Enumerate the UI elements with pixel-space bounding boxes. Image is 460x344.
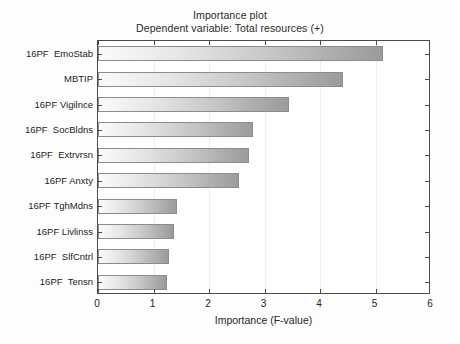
x-axis-tick: [320, 289, 321, 293]
y-axis-tick: [98, 206, 102, 207]
bar-row: [98, 193, 429, 218]
x-axis-tick-label: 2: [193, 298, 223, 309]
x-axis-tick: [154, 289, 155, 293]
y-axis-tick: [98, 54, 102, 55]
x-axis-tick-label: 4: [304, 298, 334, 309]
x-axis-tick: [98, 41, 99, 45]
y-axis-tick-label: 16PF SlfCntrl: [1, 250, 93, 261]
y-axis-tick-label: 16PF Vigilnce: [1, 98, 93, 109]
bar-row: [98, 270, 429, 294]
bar: [98, 249, 169, 264]
bar-row: [98, 117, 429, 142]
x-axis-tick: [320, 41, 321, 45]
bar-row: [98, 143, 429, 168]
y-axis-tick: [98, 181, 102, 182]
y-axis-tick: [98, 130, 102, 131]
x-axis-title: Importance (F-value): [97, 314, 430, 326]
y-axis-tick: [425, 155, 429, 156]
y-axis-tick: [425, 206, 429, 207]
y-axis-tick-label: 16PF Tensn: [1, 276, 93, 287]
y-axis-tick: [98, 155, 102, 156]
y-axis-tick: [425, 282, 429, 283]
bar: [98, 46, 383, 61]
importance-plot-chart: Importance plot Dependent variable: Tota…: [0, 0, 460, 344]
y-axis-tick-label: 16PF Extrvrsn: [1, 149, 93, 160]
x-axis-tick: [265, 41, 266, 45]
x-axis-tick-label: 5: [360, 298, 390, 309]
x-axis-tick: [154, 41, 155, 45]
x-axis-tick: [209, 289, 210, 293]
x-axis-tick-label: 1: [138, 298, 168, 309]
x-axis-tick-label: 0: [82, 298, 112, 309]
y-axis-tick: [425, 232, 429, 233]
x-axis-tick: [98, 289, 99, 293]
x-axis-tick: [376, 289, 377, 293]
y-axis-tick: [425, 79, 429, 80]
y-axis-tick-label: 16PF Livlinss: [1, 225, 93, 236]
bar-row: [98, 66, 429, 91]
bars-layer: [98, 41, 429, 293]
bar: [98, 224, 174, 239]
bar-row: [98, 168, 429, 193]
y-axis-tick: [98, 105, 102, 106]
bar-row: [98, 219, 429, 244]
bar: [98, 173, 239, 188]
x-axis-tick: [209, 41, 210, 45]
plot-area: [97, 40, 430, 294]
x-axis-tick: [376, 41, 377, 45]
bar: [98, 275, 167, 290]
y-axis-tick: [425, 105, 429, 106]
y-axis-tick: [98, 232, 102, 233]
x-axis-tick-label: 3: [249, 298, 279, 309]
y-axis-labels: 16PF EmoStabMBTIP16PF Vigilnce16PF SocBl…: [0, 0, 93, 344]
bar: [98, 122, 253, 137]
bar-row: [98, 244, 429, 269]
x-axis-tick: [265, 289, 266, 293]
y-axis-tick: [425, 130, 429, 131]
y-axis-tick: [98, 79, 102, 80]
bar: [98, 199, 177, 214]
y-axis-tick: [425, 54, 429, 55]
y-axis-tick-label: MBTIP: [1, 73, 93, 84]
y-axis-tick: [98, 282, 102, 283]
y-axis-tick: [425, 257, 429, 258]
y-axis-tick: [98, 257, 102, 258]
y-axis-tick-label: 16PF Anxty: [1, 174, 93, 185]
x-axis-tick-label: 6: [415, 298, 445, 309]
y-axis-tick-label: 16PF EmoStab: [1, 47, 93, 58]
bar: [98, 97, 289, 112]
bar: [98, 148, 249, 163]
bar: [98, 72, 343, 87]
y-axis-tick: [425, 181, 429, 182]
y-axis-tick-label: 16PF TghMdns: [1, 200, 93, 211]
bar-row: [98, 41, 429, 66]
y-axis-tick-label: 16PF SocBldns: [1, 123, 93, 134]
bar-row: [98, 92, 429, 117]
